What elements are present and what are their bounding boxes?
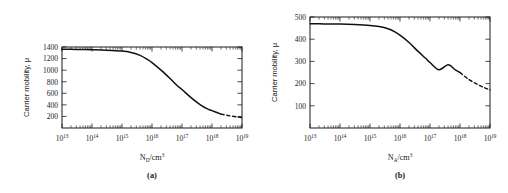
chart-panel-a: 1013101410151016101710181019200400600800… xyxy=(0,0,254,193)
y-tick-label: 200 xyxy=(295,79,307,88)
y-axis-title: Carrier mobility, μ xyxy=(22,58,31,117)
y-tick-label: 800 xyxy=(47,78,59,87)
x-tick-label: 1018 xyxy=(206,133,219,143)
semilog-plot-b: 1013101410151016101710181019100200300400… xyxy=(254,0,508,193)
curve-dashed-segment xyxy=(221,114,242,118)
y-tick-label: 200 xyxy=(47,112,59,121)
y-tick-label: 500 xyxy=(295,13,307,22)
x-tick-label: 1019 xyxy=(236,133,249,143)
panel-caption: (a) xyxy=(147,171,157,180)
y-tick-label: 400 xyxy=(295,35,307,44)
x-tick-label: 1018 xyxy=(454,133,467,143)
x-tick-label: 1017 xyxy=(176,133,189,143)
x-axis-title: NA/cm3 xyxy=(388,152,413,163)
curve-solid-segment xyxy=(310,24,460,73)
curve-dashed-segment xyxy=(460,73,490,90)
x-tick-label: 1015 xyxy=(116,133,129,143)
figure-container: 1013101410151016101710181019200400600800… xyxy=(0,0,508,193)
semilog-plot-a: 1013101410151016101710181019200400600800… xyxy=(0,0,254,193)
x-tick-label: 1014 xyxy=(86,133,99,143)
x-tick-label: 1015 xyxy=(364,133,377,143)
y-tick-label: 300 xyxy=(295,57,307,66)
y-tick-label: 400 xyxy=(47,101,59,110)
y-tick-label: 600 xyxy=(47,89,59,98)
chart-panel-b: 1013101410151016101710181019100200300400… xyxy=(254,0,508,193)
x-axis-title: ND/cm3 xyxy=(140,152,165,163)
plot-frame xyxy=(310,17,490,128)
y-tick-label: 1200 xyxy=(43,54,58,63)
x-tick-label: 1016 xyxy=(146,133,159,143)
x-tick-label: 1014 xyxy=(334,133,347,143)
y-axis-title: Carrier mobility, μ xyxy=(270,43,279,102)
y-tick-label: 100 xyxy=(295,102,307,111)
x-tick-label: 1013 xyxy=(56,133,69,143)
panel-caption: (b) xyxy=(395,171,405,180)
x-tick-label: 1016 xyxy=(394,133,407,143)
x-tick-label: 1017 xyxy=(424,133,437,143)
plot-frame xyxy=(62,47,242,128)
y-tick-label: 1000 xyxy=(43,66,58,75)
y-tick-label: 1400 xyxy=(43,43,58,52)
x-tick-label: 1019 xyxy=(484,133,497,143)
x-tick-label: 1013 xyxy=(304,133,317,143)
curve-solid-segment xyxy=(62,49,221,114)
